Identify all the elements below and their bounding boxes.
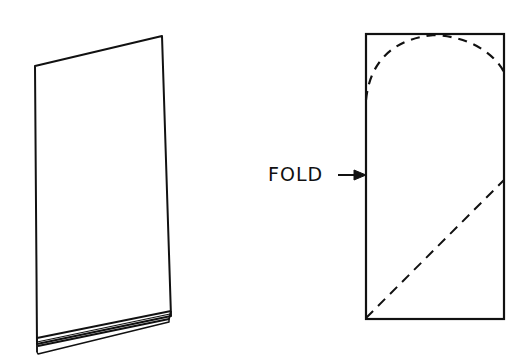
diagram-drawing [0,0,526,364]
fold-label: FOLD [268,163,323,185]
folded-paper-sheet [35,36,171,354]
cutting-pattern [338,34,504,319]
diagram-canvas: FOLD [0,0,526,364]
